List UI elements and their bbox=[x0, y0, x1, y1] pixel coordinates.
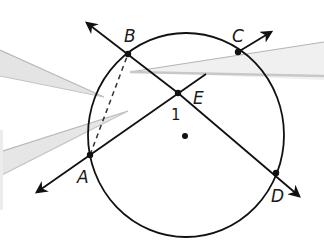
left-edge-bar bbox=[0, 130, 3, 210]
center-dot bbox=[182, 133, 188, 139]
label-d: D bbox=[271, 186, 284, 206]
point-b bbox=[125, 51, 131, 57]
point-c bbox=[235, 49, 241, 55]
point-d bbox=[273, 170, 279, 176]
angle-1-label: 1 bbox=[171, 106, 181, 124]
label-a: A bbox=[76, 167, 89, 187]
point-e bbox=[175, 90, 181, 96]
label-e: E bbox=[193, 88, 204, 108]
label-c: C bbox=[232, 26, 244, 46]
dashed-chord-ab bbox=[90, 54, 128, 155]
circle-diagram: A B C D E 1 bbox=[0, 0, 324, 247]
segment-a-e bbox=[90, 74, 206, 155]
point-a bbox=[87, 152, 93, 158]
label-b: B bbox=[124, 26, 136, 46]
